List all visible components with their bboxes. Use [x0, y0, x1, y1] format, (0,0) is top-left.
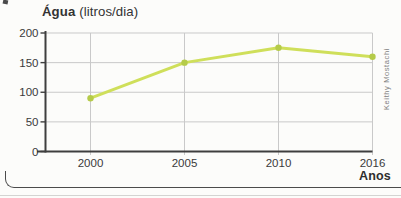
scanned-chart-page: Água (litros/dia) 0501001502002000200520…	[0, 0, 401, 198]
y-tick-label: 150	[19, 57, 38, 69]
series-line	[91, 48, 373, 98]
page-frame-border	[5, 171, 401, 188]
x-tick-label: 2010	[266, 157, 292, 169]
y-tick-label: 200	[19, 27, 38, 39]
y-tick-label: 50	[26, 116, 39, 128]
data-point	[275, 45, 281, 51]
x-tick-label: 2005	[172, 157, 198, 169]
illustrator-credit: Keithy Mostachi	[382, 48, 391, 110]
data-point	[369, 54, 375, 60]
y-tick-label: 0	[32, 146, 38, 158]
scan-edge-line	[0, 195, 401, 197]
x-tick-label: 2016	[360, 157, 386, 169]
x-tick-label: 2000	[78, 157, 104, 169]
line-chart-plot: 0501001502002000200520102016	[0, 0, 401, 198]
data-point	[181, 59, 187, 65]
data-point	[87, 95, 93, 101]
y-tick-label: 100	[19, 86, 38, 98]
